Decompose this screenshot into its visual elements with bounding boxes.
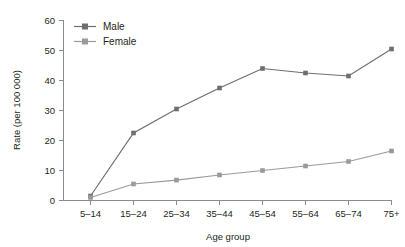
legend-label: Male <box>103 21 125 32</box>
x-tick-label: 55–64 <box>292 208 318 219</box>
series-layer <box>88 47 394 200</box>
y-tick-label: 0 <box>50 195 55 206</box>
data-point[interactable] <box>174 107 179 112</box>
x-tick-label: 75+ <box>383 208 400 219</box>
y-tick-label: 40 <box>44 75 55 86</box>
legend-label: Female <box>103 36 137 47</box>
data-point[interactable] <box>131 182 136 187</box>
data-point[interactable] <box>131 131 136 136</box>
data-point[interactable] <box>88 195 93 200</box>
data-point[interactable] <box>217 86 222 91</box>
legend: Male Female <box>74 21 137 47</box>
y-axis-ticks <box>59 21 64 201</box>
data-point[interactable] <box>389 149 394 154</box>
x-tick-label: 35–44 <box>206 208 232 219</box>
data-point[interactable] <box>217 173 222 178</box>
data-point[interactable] <box>346 74 351 79</box>
data-point[interactable] <box>260 168 265 173</box>
y-tick-label: 50 <box>44 45 55 56</box>
legend-marker <box>82 24 88 30</box>
y-axis-title: Rate (per 100 000) <box>11 70 22 150</box>
data-point[interactable] <box>346 159 351 164</box>
y-axis-tick-labels: 0 10 20 30 40 50 60 <box>44 15 55 206</box>
data-point[interactable] <box>303 164 308 169</box>
x-tick-label: 25–34 <box>163 208 189 219</box>
x-axis-title: Age group <box>206 231 250 242</box>
y-tick-label: 20 <box>44 135 55 146</box>
x-tick-label: 5–14 <box>80 208 101 219</box>
data-point[interactable] <box>174 178 179 183</box>
series-line-female <box>91 151 392 198</box>
line-chart: 0 10 20 30 40 50 60 5–14 15–24 25–34 35–… <box>0 0 405 247</box>
data-point[interactable] <box>389 47 394 52</box>
chart-canvas: 0 10 20 30 40 50 60 5–14 15–24 25–34 35–… <box>0 0 405 247</box>
y-tick-label: 60 <box>44 15 55 26</box>
legend-entry-female[interactable]: Female <box>74 36 137 47</box>
x-tick-label: 65–74 <box>335 208 361 219</box>
x-tick-label: 45–54 <box>249 208 275 219</box>
data-point[interactable] <box>260 66 265 71</box>
x-tick-label: 15–24 <box>120 208 146 219</box>
y-tick-label: 10 <box>44 165 55 176</box>
legend-marker <box>82 39 88 45</box>
data-point[interactable] <box>303 71 308 76</box>
x-axis-tick-labels: 5–14 15–24 25–34 35–44 45–54 55–64 65–74… <box>80 208 400 219</box>
x-axis-ticks <box>91 201 392 206</box>
legend-entry-male[interactable]: Male <box>74 21 125 32</box>
series-line-male <box>91 49 392 196</box>
y-tick-label: 30 <box>44 105 55 116</box>
